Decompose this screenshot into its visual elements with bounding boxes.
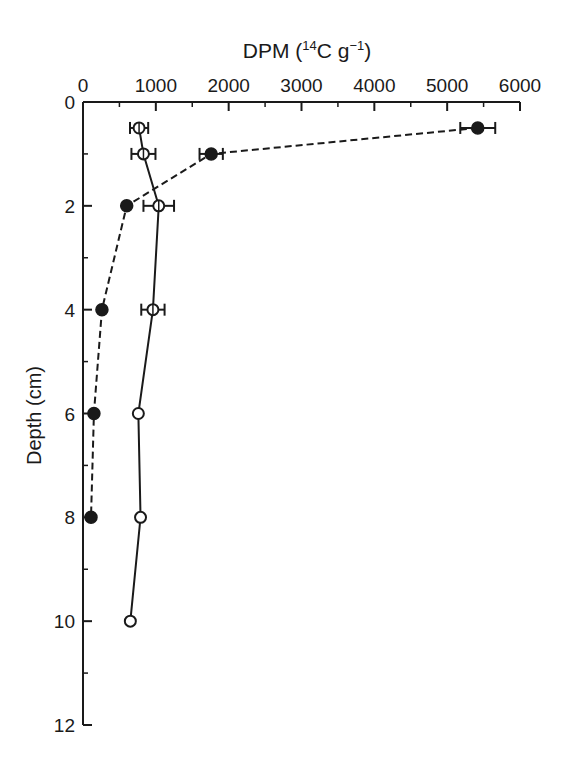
y-tick-label: 2: [64, 196, 75, 217]
x-tick-label: 5000: [426, 75, 468, 96]
x-tick-label: 2000: [208, 75, 250, 96]
y-axis-title: Depth (cm): [23, 336, 46, 496]
x-axis-title: DPM (14C g−1): [0, 38, 574, 63]
y-tick-label: 0: [64, 92, 75, 113]
data-point-filled: [85, 511, 97, 523]
x-tick-label: 3000: [280, 75, 322, 96]
data-point-open: [125, 616, 136, 627]
chart: DPM (14C g−1) Depth (cm) 010002000300040…: [0, 0, 574, 783]
y-tick-label: 10: [54, 611, 75, 632]
closed-circles-line: [91, 128, 478, 517]
data-point-filled: [205, 148, 217, 160]
data-point-open: [133, 408, 144, 419]
y-tick-label: 8: [64, 507, 75, 528]
data-point-filled: [96, 304, 108, 316]
y-tick-label: 12: [54, 715, 75, 736]
data-point-filled: [121, 200, 133, 212]
data-point-open: [135, 512, 146, 523]
x-tick-label: 4000: [353, 75, 395, 96]
data-point-filled: [472, 122, 484, 134]
y-tick-label: 4: [64, 300, 75, 321]
y-tick-label: 6: [64, 404, 75, 425]
data-point-filled: [88, 408, 100, 420]
x-tick-label: 6000: [499, 75, 541, 96]
x-tick-label: 1000: [135, 75, 177, 96]
x-tick-label: 0: [78, 75, 89, 96]
plot-area: 0100020003000400050006000024681012: [0, 0, 574, 783]
